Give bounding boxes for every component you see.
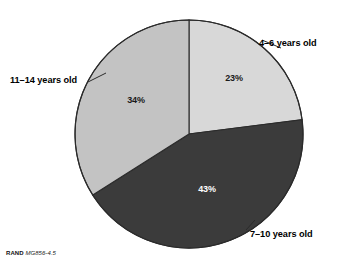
source-document-id: MG856-4.5 [25,250,55,256]
pie-category-label-4-6-years-old: 4–6 years old [259,38,317,48]
chart-plot-area: 23% 43% 34% 4–6 years old 7–10 years old… [0,0,341,262]
source-organization: RAND [6,250,24,256]
pie-slice-value-4-6-years-old: 23% [225,73,243,83]
pie-slice-value-7-10-years-old: 43% [198,184,216,194]
pie-slice-value-11-14-years-old: 34% [127,95,145,105]
pie-category-label-11-14-years-old: 11–14 years old [10,75,77,85]
figure-source-note: RAND MG856-4.5 [6,250,56,256]
pie-category-label-7-10-years-old: 7–10 years old [250,229,313,239]
pie-chart-figure: 23% 43% 34% 4–6 years old 7–10 years old… [0,0,341,262]
